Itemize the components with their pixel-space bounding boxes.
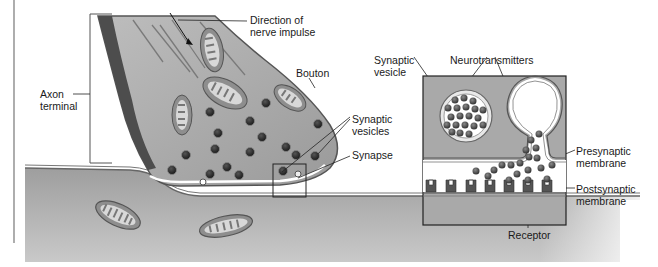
label-presynaptic-line2: membrane — [576, 157, 631, 169]
label-synaptic-vesicle-line2: vesicle — [374, 66, 414, 78]
label-synaptic-vesicles-line1: Synaptic — [352, 113, 392, 125]
label-synaptic-vesicle: Synaptic vesicle — [374, 54, 414, 78]
label-bouton: Bouton — [296, 67, 329, 79]
label-presynaptic-membrane: Presynaptic membrane — [576, 145, 631, 169]
label-receptor: Receptor — [508, 229, 551, 241]
label-synapse: Synapse — [352, 149, 393, 161]
mitochondrion — [172, 95, 192, 135]
label-synaptic-vesicles-line2: vesicles — [352, 125, 392, 137]
label-direction-impulse: Direction of nerve impulse — [250, 14, 315, 38]
label-presynaptic-line1: Presynaptic — [576, 145, 631, 157]
synapse-diagram: Axon terminal Direction of nerve impulse… — [0, 0, 658, 267]
label-postsynaptic-line1: Postsynaptic — [576, 183, 636, 195]
synapse-inset — [423, 76, 566, 225]
label-postsynaptic-membrane: Postsynaptic membrane — [576, 183, 636, 207]
label-axon-terminal-line2: terminal — [40, 100, 77, 112]
diagram-artwork — [0, 0, 658, 267]
label-direction-line1: Direction of — [250, 14, 315, 26]
axon-terminal-shape — [98, 13, 338, 186]
label-direction-line2: nerve impulse — [250, 26, 315, 38]
label-postsynaptic-line2: membrane — [576, 195, 636, 207]
label-axon-terminal-line1: Axon — [40, 88, 77, 100]
label-neurotransmitters: Neurotransmitters — [450, 54, 533, 66]
label-synaptic-vesicle-line1: Synaptic — [374, 54, 414, 66]
label-synaptic-vesicles: Synaptic vesicles — [352, 113, 392, 137]
label-axon-terminal: Axon terminal — [40, 88, 77, 112]
